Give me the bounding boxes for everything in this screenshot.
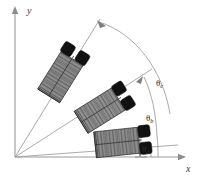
wheel-front-top: [137, 125, 150, 138]
angle-label-theta-b: θb: [146, 113, 154, 124]
angle-diagram-figure: y x: [0, 0, 201, 179]
angle-label-theta-c: θc: [156, 78, 163, 89]
vehicle-position-c: [36, 41, 90, 104]
arc-arrowheads: [97, 20, 143, 84]
y-axis-label: y: [26, 5, 32, 16]
x-axis-label: x: [185, 163, 191, 174]
y-axis: [12, 6, 18, 157]
vehicle-position-a: [94, 125, 153, 160]
vehicle-position-b: [73, 80, 136, 134]
diagram-canvas: y x: [0, 0, 201, 179]
angle-labels: θc θb θa: [142, 78, 163, 155]
